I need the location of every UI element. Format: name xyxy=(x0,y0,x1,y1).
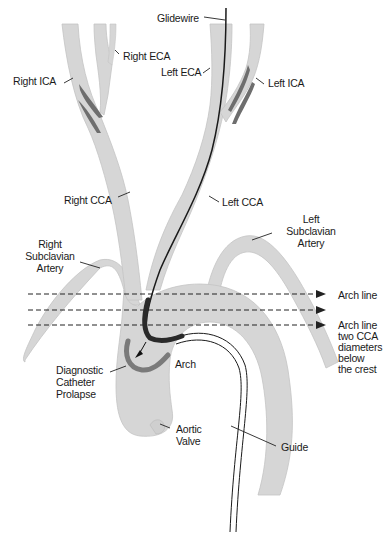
label-diagnostic-catheter-prolapse: Diagnostic Catheter Prolapse xyxy=(56,364,103,400)
arrowheads xyxy=(316,290,326,329)
label-arch-line: Arch line xyxy=(338,289,377,301)
right-eca xyxy=(94,24,112,115)
label-arch-line-two-cca: Arch line two CCA diameters below the cr… xyxy=(338,320,382,375)
label-left-subclavian-artery: Left Subclavian Artery xyxy=(280,213,342,249)
left-carotid xyxy=(146,24,232,290)
label-left-eca: Left ECA xyxy=(161,66,201,78)
aortic-arch xyxy=(116,284,292,495)
label-left-ica: Left ICA xyxy=(268,77,304,89)
label-right-cca: Right CCA xyxy=(64,194,112,206)
label-guide: Guide xyxy=(281,441,308,453)
label-right-eca: Right ECA xyxy=(123,50,170,62)
label-glidewire: Glidewire xyxy=(157,12,199,24)
label-aortic-valve: Aortic Valve xyxy=(176,423,202,447)
right-ica-internal xyxy=(108,24,116,65)
label-right-subclavian-artery: Right Subclavian Artery xyxy=(19,238,81,274)
label-arch: Arch xyxy=(175,358,196,370)
label-right-ica: Right ICA xyxy=(13,75,56,87)
label-left-cca: Left CCA xyxy=(222,196,263,208)
